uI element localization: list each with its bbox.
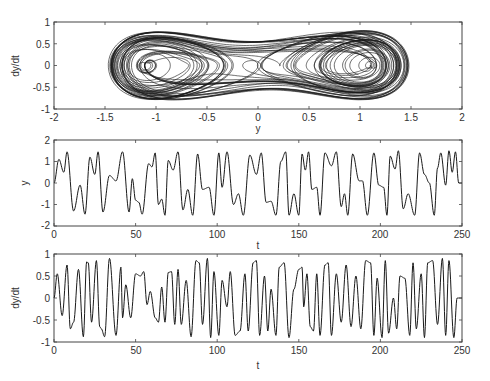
y-tick-label: -1 [41, 104, 50, 115]
y-axis-label: y [19, 181, 30, 186]
y-tick-label: 0 [44, 178, 50, 189]
x-tick-label: 1 [357, 112, 363, 123]
x-tick-label: 50 [130, 229, 142, 240]
x-tick-label: 100 [209, 345, 226, 356]
y-tick-label: 1 [44, 17, 50, 28]
dydt-time-series-plot: 0 50 100 150 200 250 1 0.5 0 -0.5 -1 t d… [10, 249, 471, 371]
y-axis-label: dy/dt [10, 55, 21, 77]
x-tick-label: 200 [372, 229, 389, 240]
x-tick-label: 250 [454, 345, 471, 356]
y-tick-label: -1 [41, 199, 50, 210]
y-tick-label: 0 [44, 293, 50, 304]
y-tick-label: -2 [41, 220, 50, 231]
y-time-series-plot: 0 50 100 150 200 250 2 1 0 -1 -2 t y [19, 135, 471, 251]
x-axis-label: t [257, 360, 260, 371]
y-tick-label: -0.5 [33, 315, 51, 326]
x-tick-labels: 0 50 100 150 200 250 [51, 345, 471, 356]
y-tick-label: 1 [44, 156, 50, 167]
x-tick-label: 0 [51, 345, 57, 356]
y-tick-label: -0.5 [33, 82, 51, 93]
x-tick-label: -0.5 [198, 112, 216, 123]
y-tick-label: 1 [44, 249, 50, 260]
phase-portrait-plot: -2 -1.5 -1 -0.5 0 0.5 1 1.5 2 1 0.5 0 -0… [10, 17, 465, 134]
y-tick-label: -1 [41, 337, 50, 348]
y-tick-label: 0.5 [36, 39, 50, 50]
figure: -2 -1.5 -1 -0.5 0 0.5 1 1.5 2 1 0.5 0 -0… [0, 0, 490, 381]
y-tick-labels: 1 0.5 0 -0.5 -1 [33, 17, 51, 115]
y-tick-labels: 2 1 0 -1 -2 [41, 135, 50, 231]
y-tick-label: 2 [44, 135, 50, 146]
x-tick-label: 150 [291, 229, 308, 240]
x-tick-label: 0 [255, 112, 261, 123]
x-tick-labels: -2 -1.5 -1 -0.5 0 0.5 1 1.5 2 [50, 112, 466, 123]
x-tick-label: 150 [291, 345, 308, 356]
x-tick-label: -1 [152, 112, 161, 123]
y-tick-label: 0 [44, 60, 50, 71]
y-tick-labels: 1 0.5 0 -0.5 -1 [33, 249, 51, 348]
y-axis-label: dy/dt [10, 287, 21, 309]
x-tick-label: -1.5 [96, 112, 114, 123]
x-tick-label: 0 [51, 229, 57, 240]
x-tick-label: 2 [459, 112, 465, 123]
x-tick-label: 200 [372, 345, 389, 356]
x-tick-label: 250 [454, 229, 471, 240]
x-tick-label: 100 [209, 229, 226, 240]
y-tick-label: 0.5 [36, 271, 50, 282]
x-tick-label: -2 [50, 112, 59, 123]
x-tick-label: 50 [130, 345, 142, 356]
x-tick-labels: 0 50 100 150 200 250 [51, 229, 471, 240]
x-axis-label: y [256, 123, 261, 134]
x-tick-label: 0.5 [302, 112, 316, 123]
x-axis-label: t [257, 240, 260, 251]
x-tick-label: 1.5 [404, 112, 418, 123]
